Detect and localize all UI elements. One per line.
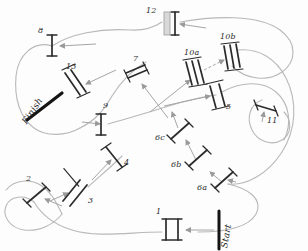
gate-label-11: 11	[267, 116, 278, 125]
gate-label-9: 9	[103, 101, 108, 110]
gate-10a-poles	[183, 57, 207, 87]
gate-label-2: 2	[26, 174, 31, 183]
gate-label-6c: 6c	[155, 133, 165, 142]
gate-label-10b: 10b	[220, 32, 236, 41]
gate-12-poles	[164, 12, 179, 35]
gate-label-5: 5	[226, 102, 231, 111]
gate-label-7: 7	[133, 54, 138, 63]
gate-7-poles	[124, 62, 149, 82]
gate-8-poles	[47, 35, 57, 56]
slalom-course-diagram: 1 2 3 4 5 6a 6b 6c 7 8 9 10a 10b 11 12 1…	[0, 0, 308, 251]
gate-poles-layer	[0, 0, 308, 251]
gate-label-12: 12	[146, 6, 157, 15]
gate-3-poles	[63, 169, 87, 206]
gate-label-13: 13	[66, 62, 77, 71]
gate-6a-poles	[211, 168, 237, 192]
gate-label-6b: 6b	[171, 160, 182, 169]
gate-label-1: 1	[156, 207, 161, 216]
gate-label-6a: 6a	[197, 183, 207, 192]
gate-6c-poles	[167, 119, 193, 143]
gate-label-8: 8	[38, 26, 43, 35]
gate-6b-poles	[185, 146, 211, 170]
gate-2-poles	[23, 183, 50, 207]
gate-label-4: 4	[124, 158, 129, 167]
gate-9-poles	[96, 114, 106, 135]
gate-label-10a: 10a	[184, 48, 200, 57]
gate-label-3: 3	[88, 196, 93, 205]
gate-1-poles	[162, 219, 182, 240]
gate-10b-poles	[221, 42, 243, 71]
gate-11-poles	[254, 100, 278, 116]
